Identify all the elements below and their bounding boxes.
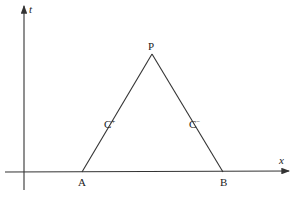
x-axis-label: x: [278, 154, 284, 166]
characteristic-c-plus: [82, 54, 152, 172]
characteristic-c-minus: [152, 54, 223, 172]
c-plus-label: C+: [104, 118, 115, 130]
characteristics-diagram: t x P A B C+ C−: [0, 0, 298, 201]
c-plus-sup: +: [111, 118, 115, 126]
t-axis-label: t: [29, 3, 33, 15]
c-minus-base: C: [189, 118, 196, 130]
point-b-label: B: [220, 176, 227, 188]
c-minus-label: C−: [189, 118, 200, 130]
c-plus-base: C: [104, 118, 111, 130]
point-p-label: P: [148, 40, 154, 52]
x-axis: [5, 171, 289, 172]
c-minus-sup: −: [196, 118, 200, 126]
point-a-label: A: [78, 176, 86, 188]
